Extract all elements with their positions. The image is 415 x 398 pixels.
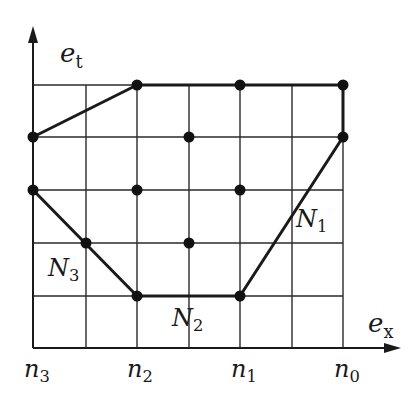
tick-label-n1: n1 xyxy=(231,357,257,381)
tick-label-n2: n2 xyxy=(127,357,153,381)
tick-label-n3: n3 xyxy=(24,357,50,381)
x-axis-label: ex xyxy=(368,310,393,336)
y-axis-arrow-icon xyxy=(28,26,38,43)
region-label-n3: N3 xyxy=(48,256,79,280)
region-label-n1: N1 xyxy=(296,207,327,231)
tick-label-n0: n0 xyxy=(334,357,360,381)
region-label-n2: N2 xyxy=(172,306,203,330)
y-axis-label: et xyxy=(60,40,83,66)
x-axis-arrow-icon xyxy=(384,343,401,353)
x-axis xyxy=(33,343,401,353)
